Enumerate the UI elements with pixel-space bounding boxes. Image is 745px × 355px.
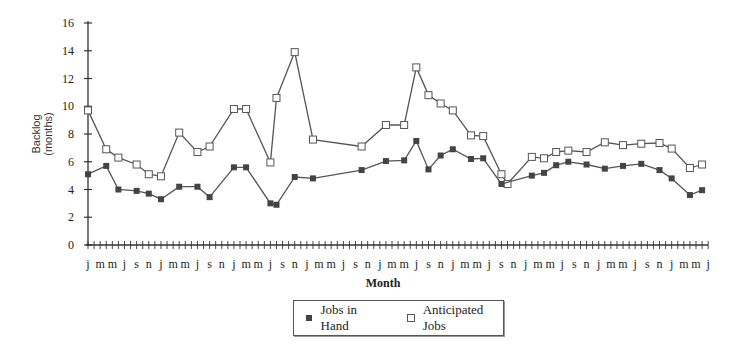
y-tick-label: 14 [62,44,74,58]
data-point-filled-square [565,159,571,165]
x-tick-label: m [399,257,409,271]
y-tick-label: 16 [62,16,74,30]
x-tick-label: j [304,257,308,271]
data-point-filled-square [425,166,431,172]
data-point-open-square [413,64,420,71]
legend-item-jobs-in-hand: Jobs in Hand [306,302,383,334]
data-point-open-square [601,139,608,146]
y-tick-label: 4 [68,183,74,197]
data-point-open-square [103,146,110,153]
data-point-open-square [480,133,487,140]
data-point-filled-square [134,188,140,194]
x-tick-label: m [545,257,555,271]
x-tick-label: s [572,257,577,271]
x-tick-label: n [584,257,590,271]
y-tick-label: 6 [68,155,74,169]
x-tick-label: m [460,257,470,271]
x-tick-label: m [472,257,482,271]
data-point-open-square [449,107,456,114]
data-point-filled-square [468,156,474,162]
data-point-filled-square [638,161,644,167]
data-point-filled-square [541,170,547,176]
x-tick-label: j [268,257,272,271]
x-tick-label: j [450,257,454,271]
data-point-filled-square [359,167,365,173]
data-point-open-square [686,164,693,171]
x-tick-label: j [523,257,527,271]
data-point-filled-square [450,146,456,152]
y-tick-label: 2 [68,210,74,224]
data-point-open-square [115,154,122,161]
data-point-filled-square [687,192,693,198]
legend: Jobs in Hand Anticipated Jobs [293,300,504,336]
data-point-filled-square [103,163,109,169]
x-tick-label: j [596,257,600,271]
legend-label-anticipated: Anticipated Jobs [423,302,503,334]
data-point-filled-square [310,175,316,181]
x-tick-label: m [254,257,264,271]
x-tick-label: s [499,257,504,271]
data-point-open-square [668,145,675,152]
data-point-open-square [85,107,92,114]
data-point-filled-square [498,181,504,187]
data-point-open-square [243,106,250,113]
data-point-open-square [206,143,213,150]
x-tick-label: s [280,257,285,271]
data-point-filled-square [207,194,213,200]
data-point-filled-square [480,155,486,161]
x-tick-label: s [645,257,650,271]
data-point-filled-square [602,166,608,172]
data-point-open-square [565,147,572,154]
x-tick-label: m [606,257,616,271]
data-point-filled-square [85,171,91,177]
data-point-filled-square [292,174,298,180]
series-jobs-in-hand [85,138,705,208]
series-line [88,141,702,205]
x-tick-label: n [657,257,663,271]
data-point-open-square [273,94,280,101]
series-anticipated-jobs [85,49,706,188]
y-axis-label-line: Backlog [30,114,42,153]
filled-square-icon [306,315,312,321]
data-point-open-square [157,173,164,180]
series-line [88,52,702,184]
data-point-open-square [638,140,645,147]
x-tick-label: j [414,257,418,271]
x-tick-label: m [95,257,105,271]
x-tick-label: m [108,257,118,271]
x-tick-label: n [365,257,371,271]
data-point-filled-square [438,153,444,159]
x-tick-label: m [327,257,337,271]
x-tick-label: s [426,257,431,271]
x-tick-label: n [438,257,444,271]
data-point-open-square [194,149,201,156]
legend-item-anticipated-jobs: Anticipated Jobs [407,302,503,334]
y-axis-label-line: (months) [42,112,54,155]
x-tick-label: j [669,257,673,271]
data-point-filled-square [176,184,182,190]
data-point-open-square [382,121,389,128]
data-point-open-square [291,49,298,56]
data-point-open-square [358,143,365,150]
x-tick-label: j [158,257,162,271]
x-tick-label: j [85,257,89,271]
x-tick-label: s [134,257,139,271]
x-tick-label: j [377,257,381,271]
data-point-filled-square [620,163,626,169]
x-tick-label: n [511,257,517,271]
data-point-open-square [699,161,706,168]
x-axis-label: Month [353,276,413,291]
data-point-open-square [437,100,444,107]
data-point-filled-square [401,157,407,163]
data-point-filled-square [273,202,279,208]
data-point-open-square [145,171,152,178]
x-tick-label: n [219,257,225,271]
x-tick-label: m [314,257,324,271]
y-tick-label: 10 [62,99,74,113]
data-point-open-square [553,149,560,156]
data-point-open-square [133,161,140,168]
data-point-filled-square [413,138,419,144]
x-tick-label: j [341,257,345,271]
data-point-filled-square [243,164,249,170]
x-tick-label: j [487,257,491,271]
